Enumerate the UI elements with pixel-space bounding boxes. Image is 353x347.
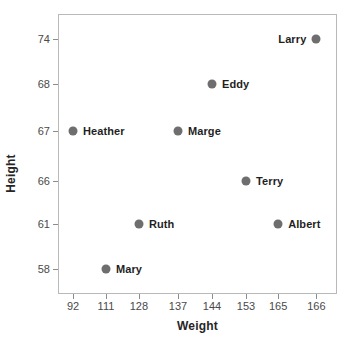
y-tick-mark [53, 131, 58, 132]
data-point-eddy[interactable] [208, 80, 217, 89]
data-point-label-albert: Albert [288, 218, 320, 230]
x-tick-mark [73, 294, 74, 299]
data-point-label-ruth: Ruth [149, 218, 174, 230]
x-tick-mark [106, 294, 107, 299]
x-axis-title: Weight [58, 319, 337, 333]
x-tick-label: 166 [307, 300, 325, 312]
data-point-terry[interactable] [242, 176, 251, 185]
y-axis-tick-labels: 746867666158 [0, 14, 50, 294]
y-tick-label: 68 [38, 78, 50, 90]
x-tick-mark [278, 294, 279, 299]
y-tick-label: 67 [38, 125, 50, 137]
scatter-chart: Height 746867666158 92111128137144153165… [0, 0, 353, 347]
data-point-label-mary: Mary [116, 263, 142, 275]
data-point-mary[interactable] [101, 265, 110, 274]
data-point-heather[interactable] [69, 127, 78, 136]
data-point-ruth[interactable] [134, 220, 143, 229]
x-tick-mark [139, 294, 140, 299]
x-tick-mark [178, 294, 179, 299]
x-axis-tick-labels: 92111128137144153165166 [58, 300, 337, 316]
y-tick-mark [53, 269, 58, 270]
y-tick-label: 61 [38, 218, 50, 230]
x-tick-label: 92 [67, 300, 79, 312]
x-tick-label: 144 [203, 300, 221, 312]
data-point-label-heather: Heather [83, 125, 125, 137]
x-tick-label: 111 [98, 300, 115, 312]
x-tick-label: 153 [237, 300, 255, 312]
y-tick-mark [53, 181, 58, 182]
x-tick-mark [212, 294, 213, 299]
y-tick-label: 66 [38, 175, 50, 187]
y-tick-mark [53, 84, 58, 85]
data-point-label-eddy: Eddy [222, 78, 249, 90]
data-point-label-larry: Larry [278, 33, 306, 45]
x-tick-label: 137 [169, 300, 187, 312]
data-point-albert[interactable] [274, 220, 283, 229]
x-tick-mark [316, 294, 317, 299]
plot-area: LarryEddyHeatherMargeTerryRuthAlbertMary [58, 14, 337, 294]
x-tick-label: 128 [130, 300, 148, 312]
x-tick-mark [246, 294, 247, 299]
y-tick-label: 74 [38, 33, 50, 45]
y-tick-mark [53, 224, 58, 225]
y-tick-label: 58 [38, 263, 50, 275]
data-point-larry[interactable] [312, 34, 321, 43]
data-point-label-terry: Terry [256, 175, 283, 187]
x-tick-label: 165 [269, 300, 287, 312]
data-point-label-marge: Marge [188, 125, 221, 137]
data-point-marge[interactable] [173, 127, 182, 136]
y-tick-mark [53, 39, 58, 40]
